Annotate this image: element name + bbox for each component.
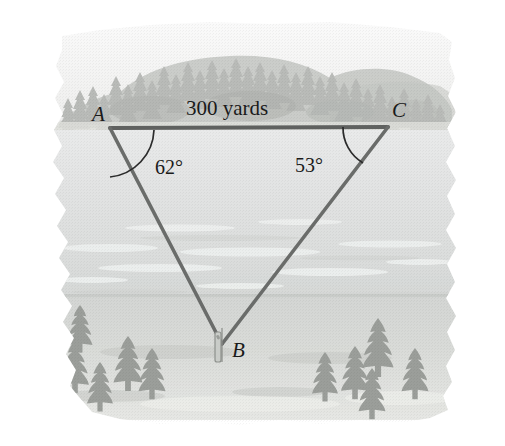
vertex-label-c: C	[392, 100, 406, 121]
angle-label-a: 62°	[155, 157, 183, 177]
scene-illustration	[0, 0, 505, 446]
scene-painting	[37, 15, 471, 425]
observer-at-B	[215, 328, 222, 362]
vertex-label-a: A	[92, 104, 105, 125]
segment-ac	[110, 127, 388, 128]
vertex-label-b: B	[232, 340, 245, 361]
geometry-figure: A C B 300 yards 62° 53°	[0, 0, 505, 446]
baseline-distance-label: 300 yards	[186, 98, 268, 119]
angle-label-c: 53°	[295, 155, 323, 175]
